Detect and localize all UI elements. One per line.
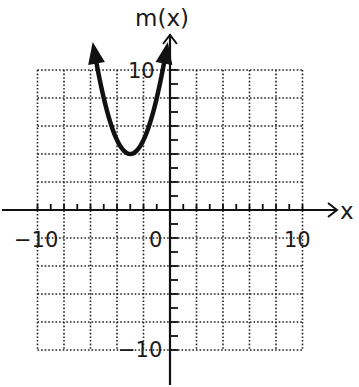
coordinate-plane: m(x) x −10 0 10 10 −10 bbox=[0, 0, 359, 387]
x-tick-label-10: 10 bbox=[284, 228, 311, 252]
axes bbox=[2, 35, 337, 385]
y-axis-label: m(x) bbox=[135, 5, 189, 31]
x-tick-label-neg10: −10 bbox=[14, 228, 58, 252]
x-tick-label-zero: 0 bbox=[149, 228, 162, 252]
curve-arrow-left-icon bbox=[88, 42, 105, 65]
x-axis-label: x bbox=[340, 198, 354, 224]
y-tick-label-neg10: −10 bbox=[118, 338, 162, 362]
y-tick-label-10: 10 bbox=[128, 59, 155, 83]
